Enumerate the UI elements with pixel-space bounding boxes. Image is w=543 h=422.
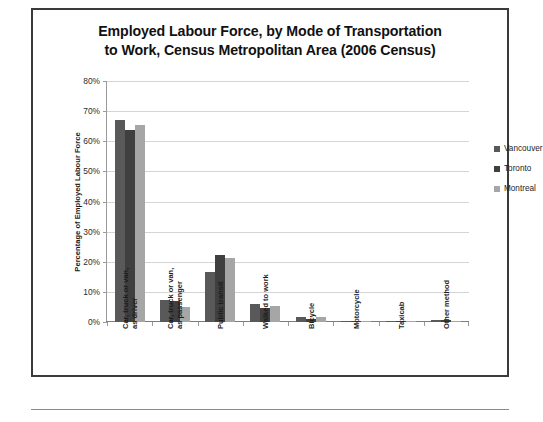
x-axis-category-label-line: Walked to work	[261, 274, 270, 329]
bottom-divider	[31, 409, 509, 410]
bar-group: Walked to work	[243, 81, 288, 322]
legend-label: Toronto	[504, 164, 531, 173]
legend-label: Vancouver	[504, 144, 543, 153]
y-tick-label: 80%	[83, 76, 100, 86]
bar-vancouver	[250, 304, 260, 322]
bar-vancouver	[386, 321, 396, 322]
bar-group: Bicycle	[288, 81, 333, 322]
bar-group: Car, truck or van,as driver	[107, 81, 152, 322]
x-axis-category-label-line: Taxicab	[397, 302, 406, 329]
x-tick-mark	[379, 322, 380, 326]
x-tick-mark	[468, 322, 469, 326]
x-axis-category-label-line: Bicycle	[306, 303, 315, 329]
x-axis-category-label: Motorcycle	[351, 289, 360, 329]
x-axis-category-label-line: as driver	[130, 268, 139, 329]
bar-montreal	[270, 306, 280, 322]
bar-vancouver	[341, 321, 351, 322]
x-axis-category-label-line: Public transit	[216, 281, 225, 329]
x-axis-category-label-line: Motorcycle	[351, 289, 360, 329]
chart-legend: VancouverTorontoMontreal	[494, 144, 543, 204]
bar-group: Taxicab	[379, 81, 424, 322]
y-tick-label: 30%	[83, 227, 100, 237]
legend-swatch-icon	[494, 146, 500, 152]
y-tick-label: 70%	[83, 106, 100, 116]
bar-group: Public transit	[198, 81, 243, 322]
x-axis-category-label: Other method	[442, 280, 451, 329]
legend-swatch-icon	[494, 186, 500, 192]
x-axis-category-label: Walked to work	[261, 274, 270, 329]
x-axis-category-label: Car, truck or van,as passenger	[166, 268, 184, 329]
y-tick-label: 60%	[83, 136, 100, 146]
legend-swatch-icon	[494, 166, 500, 172]
x-axis-category-label-line: Car, truck or van,	[166, 268, 175, 329]
x-tick-mark	[424, 322, 425, 326]
y-tick-label: 40%	[83, 197, 100, 207]
bar-montreal	[225, 258, 235, 322]
chart-frame: Employed Labour Force, by Mode of Transp…	[31, 8, 509, 377]
x-tick-mark	[152, 322, 153, 326]
x-axis-category-label-line: Car, truck or van,	[121, 268, 130, 329]
bar-group: Other method	[424, 81, 469, 322]
chart-title-line-1: Employed Labour Force, by Mode of Transp…	[33, 22, 507, 41]
legend-item-vancouver[interactable]: Vancouver	[494, 144, 543, 153]
bar-montreal	[451, 321, 461, 323]
legend-label: Montreal	[504, 184, 536, 193]
x-axis-category-label: Bicycle	[306, 303, 315, 329]
x-axis-category-label-line: as passenger	[175, 268, 184, 329]
chart-title: Employed Labour Force, by Mode of Transp…	[33, 22, 507, 60]
x-axis-category-label: Car, truck or van,as driver	[121, 268, 139, 329]
x-axis-category-label: Public transit	[216, 281, 225, 329]
y-tick-label: 10%	[83, 287, 100, 297]
bar-vancouver	[296, 317, 306, 322]
bar-montreal	[406, 321, 416, 322]
bar-group: Car, truck or van,as passenger	[152, 81, 197, 322]
x-tick-mark	[198, 322, 199, 326]
chart-title-line-2: to Work, Census Metropolitan Area (2006 …	[33, 41, 507, 60]
bar-group: Motorcycle	[333, 81, 378, 322]
x-tick-mark	[333, 322, 334, 326]
y-axis-title: Percentage of Employed Labour Force	[73, 132, 82, 271]
bar-vancouver	[431, 320, 441, 322]
y-tick-label: 0%	[88, 317, 100, 327]
x-axis-category-label-line: Other method	[442, 280, 451, 329]
x-tick-mark	[107, 322, 108, 326]
y-tick-label: 50%	[83, 166, 100, 176]
x-tick-mark	[288, 322, 289, 326]
legend-item-toronto[interactable]: Toronto	[494, 164, 543, 173]
x-tick-mark	[243, 322, 244, 326]
y-tick-label: 20%	[83, 257, 100, 267]
bar-montreal	[316, 317, 326, 322]
plot-area: 80%70%60%50%40%30%20%10%0% Car, truck or…	[107, 81, 469, 322]
legend-item-montreal[interactable]: Montreal	[494, 184, 543, 193]
x-axis-category-label: Taxicab	[397, 302, 406, 329]
bar-montreal	[361, 321, 371, 322]
bar-vancouver	[205, 272, 215, 322]
